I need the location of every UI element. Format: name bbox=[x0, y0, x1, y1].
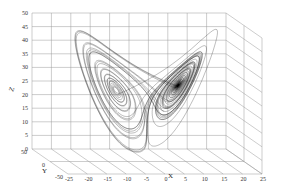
svg-text:45: 45 bbox=[22, 24, 28, 30]
svg-text:35: 35 bbox=[22, 51, 28, 57]
attractor-trajectory bbox=[75, 29, 218, 152]
y-axis-label: Y bbox=[42, 167, 47, 175]
svg-text:25: 25 bbox=[22, 78, 28, 84]
svg-text:-50: -50 bbox=[55, 174, 63, 180]
svg-text:-25: -25 bbox=[65, 176, 73, 182]
svg-text:15: 15 bbox=[22, 105, 28, 111]
svg-text:20: 20 bbox=[22, 92, 28, 98]
svg-text:25: 25 bbox=[260, 176, 266, 182]
svg-text:40: 40 bbox=[22, 37, 28, 43]
svg-text:50: 50 bbox=[22, 10, 28, 16]
lorenz-3d-chart: 05101520253035404550-25-20-15-10-5051015… bbox=[0, 0, 284, 189]
axis-ticks: 05101520253035404550-25-20-15-10-5051015… bbox=[21, 10, 266, 182]
svg-text:20: 20 bbox=[241, 176, 247, 182]
svg-text:50: 50 bbox=[21, 149, 27, 155]
z-axis-label: Z bbox=[7, 86, 16, 93]
svg-text:-20: -20 bbox=[84, 176, 92, 182]
svg-text:-10: -10 bbox=[123, 176, 131, 182]
svg-text:30: 30 bbox=[22, 64, 28, 70]
svg-text:15: 15 bbox=[221, 176, 227, 182]
x-axis-label: X bbox=[168, 172, 173, 180]
svg-text:10: 10 bbox=[202, 176, 208, 182]
svg-text:5: 5 bbox=[184, 176, 187, 182]
svg-text:10: 10 bbox=[22, 119, 28, 125]
svg-text:5: 5 bbox=[25, 132, 28, 138]
svg-text:-15: -15 bbox=[104, 176, 112, 182]
svg-text:-5: -5 bbox=[144, 176, 149, 182]
